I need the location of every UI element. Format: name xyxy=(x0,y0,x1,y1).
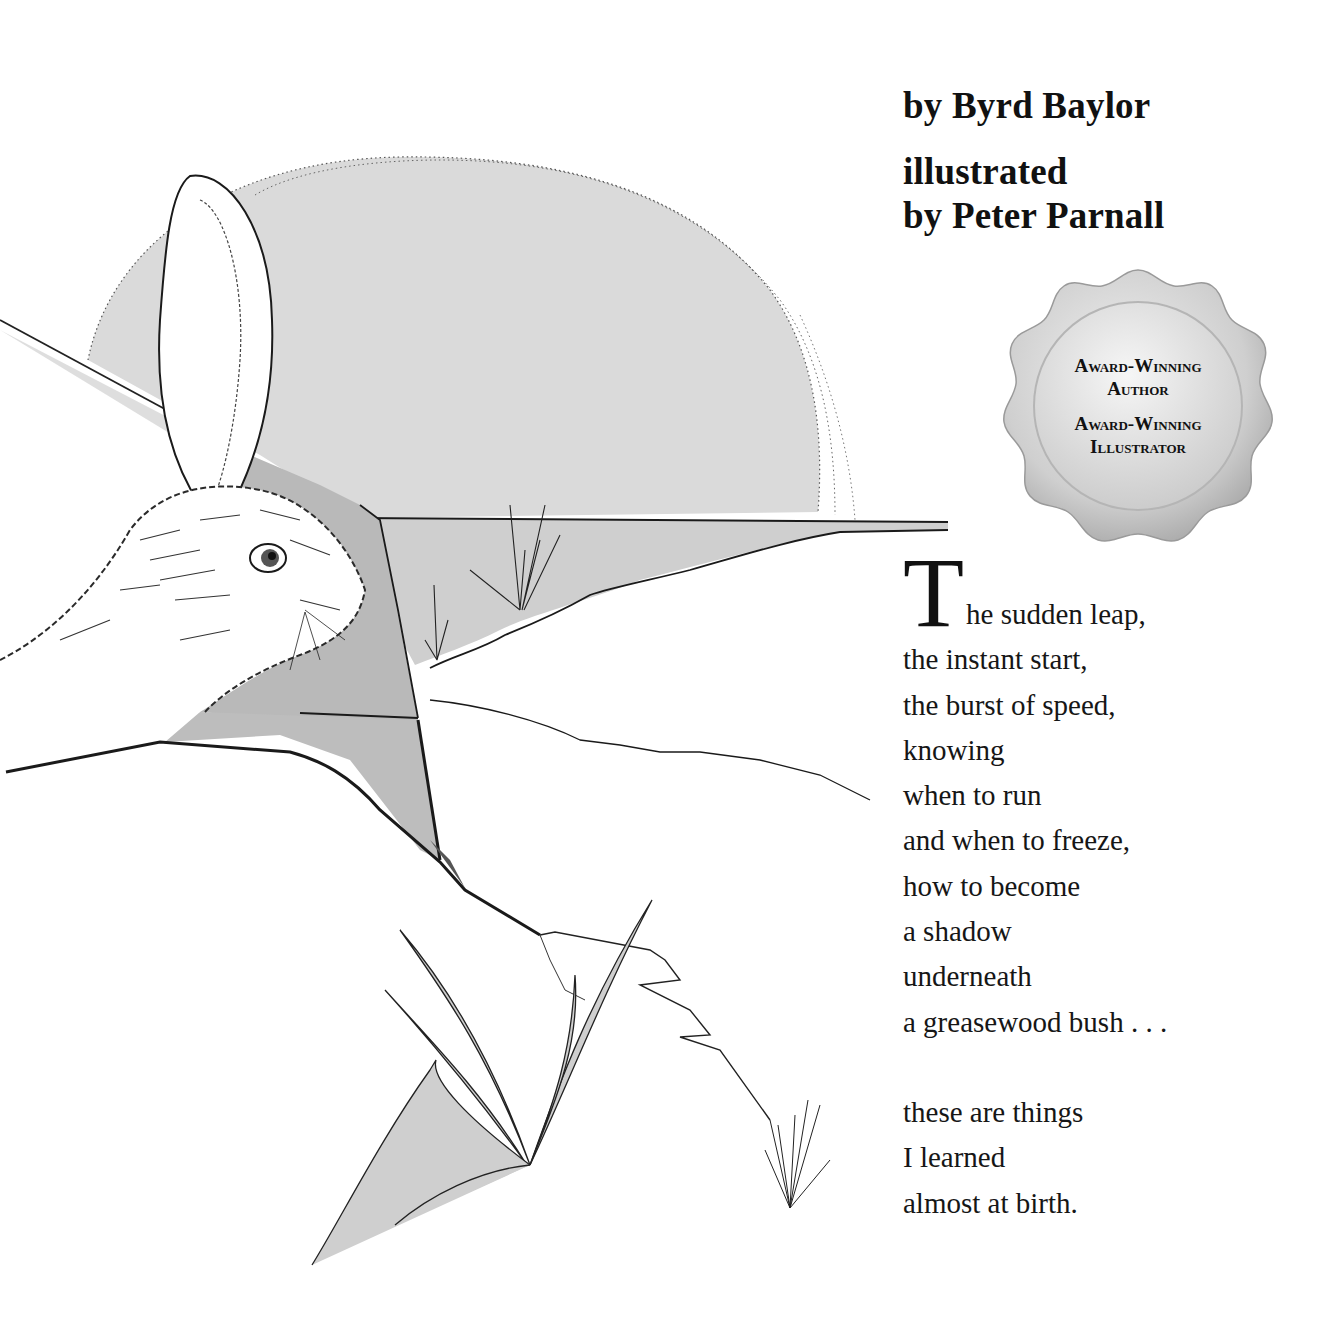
illustrator-credit: illustrated by Peter Parnall xyxy=(903,150,1164,238)
poem-line: the burst of speed, xyxy=(903,683,1167,728)
poem-line: a shadow xyxy=(903,909,1167,954)
poem-first-line: The sudden leap, xyxy=(903,552,1167,637)
seal-line-illustrator: Illustrator xyxy=(1090,435,1186,458)
author-credit: by Byrd Baylor xyxy=(903,84,1150,128)
drop-cap: T xyxy=(903,558,964,632)
poem-line: and when to freeze, xyxy=(903,818,1167,863)
seal-line-author: Author xyxy=(1107,377,1168,400)
illustrator-credit-line2: by Peter Parnall xyxy=(903,194,1164,238)
award-seal-text: Award-Winning Author Award-Winning Illus… xyxy=(1002,266,1274,546)
seal-line-author-award: Award-Winning xyxy=(1074,354,1201,377)
poem-line: a greasewood bush . . . xyxy=(903,1000,1167,1045)
grass-tuft-small xyxy=(765,1100,830,1208)
illustrator-credit-line1: illustrated xyxy=(903,150,1164,194)
lake-horizon xyxy=(355,518,948,668)
jackrabbit-desert-illustration xyxy=(0,0,960,1325)
grass-tuft-large xyxy=(312,900,652,1265)
seal-line-illustrator-award: Award-Winning xyxy=(1074,412,1201,435)
poem-line: how to become xyxy=(903,864,1167,909)
poem-line: when to run xyxy=(903,773,1167,818)
poem-first-line-rest: he sudden leap, xyxy=(966,552,1146,637)
stanza-break xyxy=(903,1045,1167,1090)
poem-line: I learned xyxy=(903,1135,1167,1180)
poem-line: the instant start, xyxy=(903,637,1167,682)
poem-line: almost at birth. xyxy=(903,1181,1167,1226)
poem-text: The sudden leap, the instant start, the … xyxy=(903,552,1167,1226)
poem-line: underneath xyxy=(903,954,1167,999)
poem-line: knowing xyxy=(903,728,1167,773)
poem-line: these are things xyxy=(903,1090,1167,1135)
